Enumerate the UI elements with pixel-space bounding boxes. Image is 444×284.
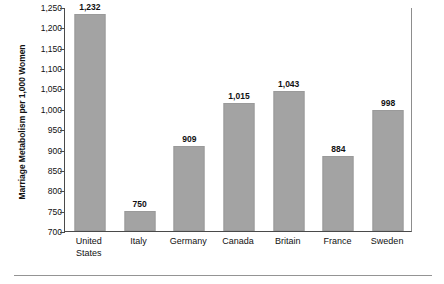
y-axis-tick-label: 1,150 <box>24 44 62 54</box>
bar[interactable] <box>174 146 205 231</box>
bar[interactable] <box>124 211 155 231</box>
y-axis-tick-label: 900 <box>24 146 62 156</box>
x-axis-category-label-line: Britain <box>263 236 313 248</box>
bar-slot: 750 <box>115 8 165 231</box>
bar-slot: 1,015 <box>214 8 264 231</box>
bar-value-label: 1,015 <box>228 91 249 101</box>
bar-value-label: 998 <box>381 98 395 108</box>
y-axis-tick-label: 1,050 <box>24 84 62 94</box>
y-axis-tick-label: 1,250 <box>24 3 62 13</box>
bar-value-label: 1,043 <box>278 79 299 89</box>
y-axis-tick-label: 1,000 <box>24 105 62 115</box>
bar-slot: 1,043 <box>264 8 314 231</box>
x-axis-category-label: UnitedStates <box>64 236 114 259</box>
x-axis-category-label: Italy <box>114 236 164 248</box>
x-axis-category-label-line: Canada <box>213 236 263 248</box>
x-axis-category-label: Canada <box>213 236 263 248</box>
x-axis-category-label-line: United <box>64 236 114 248</box>
bar[interactable] <box>273 91 304 231</box>
bar-slot: 998 <box>363 8 413 231</box>
y-axis-tick-label: 800 <box>24 186 62 196</box>
x-axis-category-label: Sweden <box>362 236 412 248</box>
y-axis-tick-label: 1,100 <box>24 64 62 74</box>
footer-divider <box>14 275 432 276</box>
bar-slot: 1,232 <box>65 8 115 231</box>
bar-slot: 909 <box>164 8 214 231</box>
bar[interactable] <box>74 14 105 231</box>
x-axis-category-label-line: Sweden <box>362 236 412 248</box>
x-axis-category-label-line: Italy <box>114 236 164 248</box>
bar-series: 1,2327509091,0151,043884998 <box>65 8 411 231</box>
bar-value-label: 750 <box>132 199 146 209</box>
y-axis-tick-label: 950 <box>24 125 62 135</box>
x-axis-category-label: Germany <box>163 236 213 248</box>
bar[interactable] <box>323 156 354 231</box>
x-axis-category-label-line: France <box>313 236 363 248</box>
x-axis-category-label-line: States <box>64 248 114 260</box>
bar-chart-figure: Marriage Metabolism per 1,000 Women 1,25… <box>0 0 444 284</box>
y-axis-tick-label: 850 <box>24 166 62 176</box>
x-axis-category-label: France <box>313 236 363 248</box>
y-axis-tick-label: 1,200 <box>24 23 62 33</box>
bar-value-label: 884 <box>331 144 345 154</box>
bar[interactable] <box>223 103 254 231</box>
bar[interactable] <box>373 110 404 231</box>
x-axis-category-label: Britain <box>263 236 313 248</box>
y-axis-tick-mark <box>60 232 65 233</box>
y-axis-tick-labels: 1,2501,2001,1501,1001,0501,0009509008508… <box>24 8 62 232</box>
x-axis-category-label-line: Germany <box>163 236 213 248</box>
x-axis-category-labels: UnitedStatesItalyGermanyCanadaBritainFra… <box>64 236 412 276</box>
bar-slot: 884 <box>314 8 364 231</box>
bar-value-label: 909 <box>182 134 196 144</box>
bar-value-label: 1,232 <box>79 2 100 12</box>
y-axis-tick-label: 750 <box>24 207 62 217</box>
plot-area: 1,2327509091,0151,043884998 <box>64 8 412 232</box>
y-axis-tick-label: 700 <box>24 227 62 237</box>
